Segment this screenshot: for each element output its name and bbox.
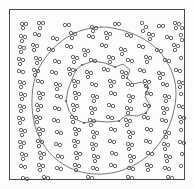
plot-frame [9, 9, 185, 180]
scatter-plot-figure [0, 0, 194, 189]
